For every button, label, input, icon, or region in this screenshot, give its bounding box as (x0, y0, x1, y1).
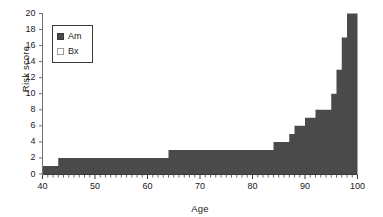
x-axis-label: Age (42, 198, 358, 216)
legend-swatch-hollow-square-icon (57, 48, 64, 55)
x-tick-label: 70 (185, 181, 215, 191)
y-tick-label: 16 (14, 40, 36, 50)
legend-item-am[interactable]: Am (57, 29, 89, 44)
chart-legend: Am Bx (52, 25, 93, 63)
y-axis-label-text: Risk score (20, 46, 31, 92)
y-tick-label: 10 (14, 88, 36, 98)
legend-label-bx: Bx (68, 47, 79, 56)
y-tick-label: 0 (14, 169, 36, 179)
y-tick-label: 12 (14, 72, 36, 82)
x-tick-label: 50 (80, 181, 110, 191)
y-tick-label: 4 (14, 136, 36, 146)
legend-swatch-filled-square-icon (57, 33, 64, 40)
x-tick-label: 100 (343, 181, 373, 191)
y-tick-label: 18 (14, 24, 36, 34)
y-tick-label: 6 (14, 120, 36, 130)
x-tick-label: 90 (290, 181, 320, 191)
risk-score-chart-figure: Risk score Age 02468101214161820 4050607… (0, 0, 383, 217)
y-tick-label: 14 (14, 56, 36, 66)
legend-item-bx[interactable]: Bx (57, 44, 89, 59)
y-tick-label: 8 (14, 104, 36, 114)
x-tick-label: 60 (133, 181, 163, 191)
y-tick-label: 2 (14, 152, 36, 162)
y-tick-label: 20 (14, 8, 36, 18)
x-tick-label: 40 (28, 181, 58, 191)
y-tick-marks (39, 14, 43, 175)
x-axis-label-text: Age (191, 203, 209, 214)
x-tick-label: 80 (238, 181, 268, 191)
legend-label-am: Am (68, 32, 82, 41)
